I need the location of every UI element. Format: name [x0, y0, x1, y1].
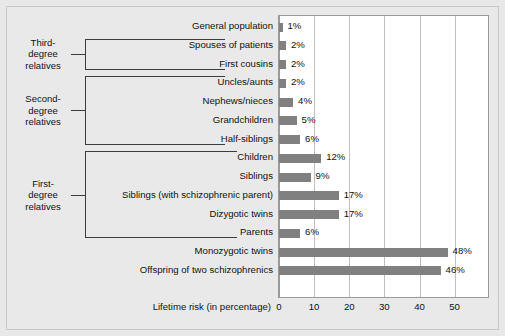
- category-label: Parents: [240, 226, 273, 238]
- category-label: Children: [237, 151, 273, 163]
- bar-value-label: 17%: [344, 209, 363, 219]
- bar: [279, 23, 283, 32]
- bar-value-label: 9%: [316, 171, 330, 181]
- category-label: General population: [192, 20, 273, 32]
- bar-value-label: 4%: [298, 96, 312, 106]
- category-label: First cousins: [219, 58, 273, 70]
- bar-value-label: 6%: [305, 134, 319, 144]
- bar: [279, 154, 321, 163]
- bar: [279, 173, 311, 182]
- bar: [279, 116, 297, 125]
- category-label: Half-siblings: [221, 133, 273, 145]
- bar-value-label: 2%: [291, 77, 305, 87]
- bar-value-label: 2%: [291, 59, 305, 69]
- category-label: Offspring of two schizophrenics: [140, 264, 273, 276]
- figure-container: Third-degreerelativesSecond-degreerelati…: [0, 0, 505, 336]
- bar: [279, 98, 293, 107]
- bar-value-label: 5%: [302, 115, 316, 125]
- category-label: Nephews/nieces: [203, 95, 273, 107]
- figure-panel: Third-degreerelativesSecond-degreerelati…: [6, 6, 499, 330]
- bar: [279, 41, 286, 50]
- x-tick-label: 20: [337, 301, 361, 312]
- x-tick-label: 50: [443, 301, 467, 312]
- category-labels-column: General populationSpouses of patientsFir…: [7, 7, 278, 331]
- x-tick-label: 30: [372, 301, 396, 312]
- x-tick-label: 40: [408, 301, 432, 312]
- bar-value-label: 1%: [288, 21, 302, 31]
- x-axis-title: Lifetime risk (in percentage): [153, 301, 271, 312]
- category-label: Monozygotic twins: [195, 245, 273, 257]
- bar: [279, 191, 339, 200]
- bar-value-label: 48%: [453, 246, 472, 256]
- bar-value-label: 12%: [326, 152, 345, 162]
- category-label: Uncles/aunts: [218, 76, 273, 88]
- category-label: Grandchildren: [213, 114, 273, 126]
- bar: [279, 135, 300, 144]
- bar: [279, 229, 300, 238]
- bar: [279, 60, 286, 69]
- bar: [279, 266, 441, 275]
- category-label: Dizygotic twins: [210, 208, 273, 220]
- category-label: Siblings: [239, 170, 273, 182]
- bar: [279, 79, 286, 88]
- category-label: Siblings (with schizophrenic parent): [122, 189, 273, 201]
- bar: [279, 248, 448, 257]
- bar-value-label: 6%: [305, 227, 319, 237]
- category-label: Spouses of patients: [189, 39, 273, 51]
- bar-value-label: 2%: [291, 40, 305, 50]
- bar: [279, 210, 339, 219]
- bar-value-label: 17%: [344, 190, 363, 200]
- x-tick-label: 10: [302, 301, 326, 312]
- bar-value-label: 46%: [446, 265, 465, 275]
